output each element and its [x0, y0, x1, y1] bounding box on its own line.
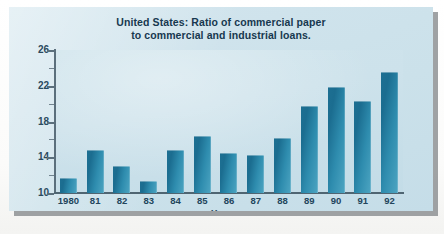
bar	[113, 166, 130, 193]
y-tick-label: 14	[23, 151, 49, 162]
y-minor-tick-mark	[49, 139, 54, 140]
bar-top-highlight	[60, 178, 77, 179]
bar	[220, 153, 237, 193]
y-tick-label: 26	[23, 44, 49, 55]
bar-top-highlight	[220, 153, 237, 154]
bar-series	[55, 50, 403, 193]
bar-top-highlight	[354, 101, 371, 102]
bar	[301, 106, 318, 193]
x-tick-label: 87	[242, 195, 269, 206]
bar	[167, 150, 184, 193]
bar-slot	[296, 50, 323, 193]
y-minor-tick-mark	[49, 68, 54, 69]
x-tick-label: 81	[82, 195, 109, 206]
bar-top-highlight	[328, 87, 345, 88]
y-tick-mark	[47, 157, 54, 159]
bar	[87, 150, 104, 193]
bar-top-highlight	[113, 166, 130, 167]
y-tick-mark	[47, 122, 54, 124]
bar-slot	[189, 50, 216, 193]
bar-top-highlight	[301, 106, 318, 107]
y-tick-label: 10	[23, 187, 49, 198]
x-tick-label: 84	[162, 195, 189, 206]
y-tick-label: 22	[23, 80, 49, 91]
bar-slot	[162, 50, 189, 193]
bar-top-highlight	[381, 72, 398, 73]
bar-top-highlight	[140, 181, 157, 182]
bar-slot	[323, 50, 350, 193]
page-bottom-strip	[0, 216, 444, 234]
x-axis-title: Year	[9, 207, 433, 211]
bar	[194, 136, 211, 193]
bar	[247, 155, 264, 193]
y-axis-labels: 1014182226	[15, 7, 49, 211]
bar-slot	[349, 50, 376, 193]
x-tick-label: 90	[323, 195, 350, 206]
bar-top-highlight	[274, 138, 291, 139]
x-tick-label: 89	[296, 195, 323, 206]
chart-title-line-1: United States: Ratio of commercial paper	[9, 16, 433, 29]
x-tick-label: 86	[216, 195, 243, 206]
x-tick-label: 91	[349, 195, 376, 206]
y-tick-mark	[47, 86, 54, 88]
bar	[60, 178, 77, 193]
y-tick-mark	[47, 193, 54, 195]
x-tick-label: 92	[376, 195, 403, 206]
y-minor-tick-mark	[49, 104, 54, 105]
bar-slot	[216, 50, 243, 193]
bar-top-highlight	[247, 155, 264, 156]
x-tick-label: 82	[109, 195, 136, 206]
chart-title: United States: Ratio of commercial paper…	[9, 16, 433, 42]
bar	[328, 87, 345, 193]
bar-slot	[269, 50, 296, 193]
bar-slot	[55, 50, 82, 193]
bar-slot	[82, 50, 109, 193]
bar-top-highlight	[87, 150, 104, 151]
y-tick-label: 18	[23, 116, 49, 127]
bar-slot	[109, 50, 136, 193]
x-tick-label: 85	[189, 195, 216, 206]
chart-panel: United States: Ratio of commercial paper…	[9, 7, 433, 211]
bar	[354, 101, 371, 193]
bar-top-highlight	[194, 136, 211, 137]
y-minor-tick-mark	[49, 175, 54, 176]
bar-slot	[135, 50, 162, 193]
bar-slot	[242, 50, 269, 193]
y-tick-mark	[47, 50, 54, 52]
x-tick-label: 1980	[55, 195, 82, 206]
bar	[381, 72, 398, 193]
bar	[140, 181, 157, 193]
bar-top-highlight	[167, 150, 184, 151]
x-tick-label: 88	[269, 195, 296, 206]
bar	[274, 138, 291, 193]
chart-title-line-2: to commercial and industrial loans.	[9, 29, 433, 42]
x-tick-label: 83	[135, 195, 162, 206]
figure-page: United States: Ratio of commercial paper…	[0, 0, 444, 234]
bar-slot	[376, 50, 403, 193]
